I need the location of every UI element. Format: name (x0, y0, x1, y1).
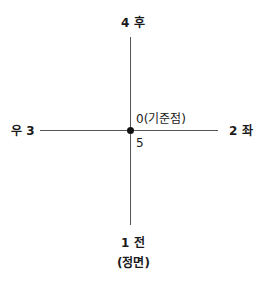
label-origin: 0(기준점) (136, 112, 186, 126)
origin-dot (127, 127, 134, 134)
label-left-side: 2 좌 (229, 124, 253, 138)
label-back: 4 후 (121, 16, 145, 30)
label-front-sub: (정면) (117, 256, 150, 270)
label-center: 5 (136, 136, 144, 150)
label-right-side: 우 3 (11, 124, 35, 138)
label-front: 1 전 (121, 236, 145, 250)
